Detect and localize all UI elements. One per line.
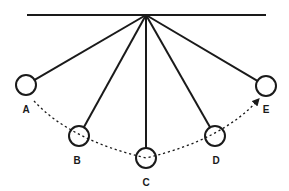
label-d: D [212, 155, 219, 166]
string-b [84, 15, 146, 127]
bob-b [69, 126, 89, 146]
label-e: E [263, 104, 270, 115]
pendulum-diagram: ABCDE [0, 0, 289, 191]
string-e [146, 15, 257, 81]
bob-d [205, 126, 225, 146]
bob-a [16, 75, 36, 95]
label-c: C [142, 177, 149, 188]
bob-e [256, 76, 276, 96]
string-d [146, 15, 210, 127]
bob-c [136, 148, 156, 168]
string-a [35, 15, 146, 80]
label-a: A [22, 104, 29, 115]
label-b: B [73, 155, 80, 166]
